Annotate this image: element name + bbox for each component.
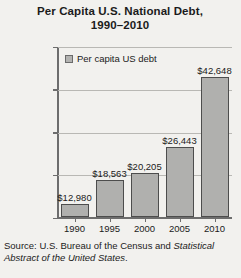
gridline: [58, 47, 232, 48]
y-axis-tick: [53, 175, 57, 177]
x-axis-tick: [145, 218, 147, 222]
y-axis-tick: [53, 47, 57, 49]
x-axis-tick: [110, 218, 112, 222]
legend-swatch-icon: [65, 55, 73, 63]
bar: [96, 180, 124, 217]
source-note: Source: U.S. Bureau of the Census and St…: [4, 240, 238, 264]
chart-title-line-2: 1990–2010: [0, 18, 240, 32]
bar-value-label: $42,648: [189, 66, 241, 76]
legend-label: Per capita US debt: [77, 54, 157, 64]
x-axis-tick: [215, 218, 217, 222]
chart-legend: Per capita US debt: [65, 54, 157, 64]
bar-value-label: $12,980: [49, 193, 101, 203]
source-prefix: Source: U.S. Bureau of the Census and: [4, 240, 174, 251]
y-axis-tick: [53, 218, 57, 220]
bar: [131, 173, 159, 217]
x-axis-tick: [180, 218, 182, 222]
bar-value-label: $26,443: [154, 136, 206, 146]
bar-value-label: $20,205: [119, 162, 171, 172]
bar: [61, 204, 89, 217]
bar: [166, 147, 194, 217]
plot-area: $10,000$20,000$30,000$40,000$50,000 Per …: [57, 47, 232, 218]
y-axis-tick: [53, 89, 57, 91]
source-suffix: .: [125, 252, 128, 263]
bar: [201, 77, 229, 217]
x-axis-tick: [75, 218, 77, 222]
x-axis-label: 2010: [189, 223, 241, 234]
chart-title: Per Capita U.S. National Debt, 1990–2010: [0, 4, 240, 32]
chart-title-line-1: Per Capita U.S. National Debt,: [37, 5, 203, 17]
y-axis-tick: [53, 132, 57, 134]
